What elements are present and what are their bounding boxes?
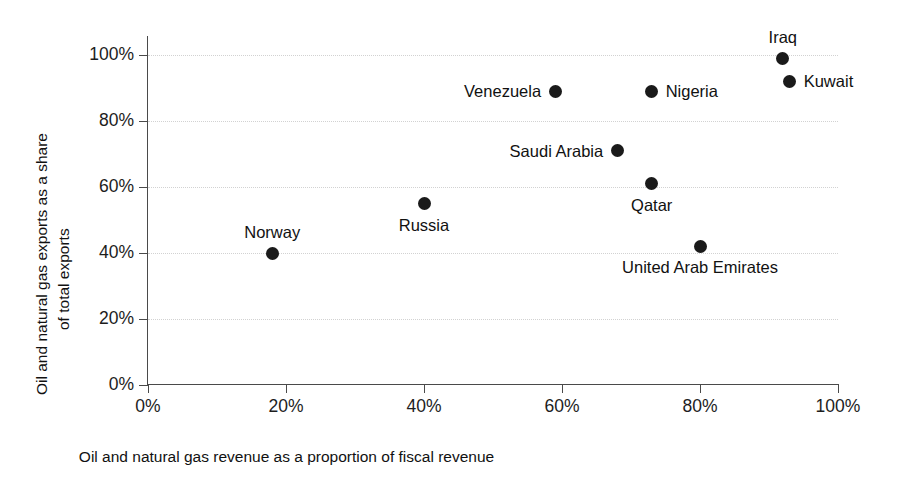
data-point-qatar[interactable] bbox=[645, 177, 658, 190]
y-tick-20 bbox=[139, 319, 148, 320]
y-axis-title-line1: Oil and natural gas exports as a share bbox=[33, 133, 51, 395]
x-tick-60 bbox=[562, 385, 563, 393]
data-label-norway: Norway bbox=[244, 223, 300, 242]
x-axis-line bbox=[148, 384, 839, 385]
y-tick-80 bbox=[139, 121, 148, 122]
y-tick-label-80: 80% bbox=[64, 110, 134, 131]
data-label-qatar: Qatar bbox=[631, 196, 672, 215]
x-tick-20 bbox=[286, 385, 287, 393]
gridline-100 bbox=[148, 55, 838, 56]
data-point-russia[interactable] bbox=[418, 197, 431, 210]
gridline-80 bbox=[148, 121, 838, 122]
y-tick-0 bbox=[139, 385, 148, 386]
data-point-saudi-arabia[interactable] bbox=[611, 144, 624, 157]
gridline-20 bbox=[148, 319, 838, 320]
data-point-norway[interactable] bbox=[266, 247, 279, 260]
y-tick-label-60: 60% bbox=[64, 176, 134, 197]
x-tick-label-100: 100% bbox=[816, 396, 861, 417]
data-label-venezuela: Venezuela bbox=[464, 82, 541, 101]
data-point-kuwait[interactable] bbox=[783, 75, 796, 88]
x-tick-40 bbox=[424, 385, 425, 393]
data-point-united-arab-emirates[interactable] bbox=[694, 240, 707, 253]
y-tick-label-20: 20% bbox=[64, 308, 134, 329]
x-tick-label-0: 0% bbox=[135, 396, 160, 417]
data-label-united-arab-emirates: United Arab Emirates bbox=[622, 258, 778, 277]
gridline-40 bbox=[148, 253, 838, 254]
data-label-saudi-arabia: Saudi Arabia bbox=[510, 141, 604, 160]
x-tick-label-20: 20% bbox=[268, 396, 303, 417]
y-tick-40 bbox=[139, 253, 148, 254]
y-tick-label-0: 0% bbox=[64, 374, 134, 395]
y-tick-label-100: 100% bbox=[64, 44, 134, 65]
y-axis-line bbox=[147, 36, 148, 385]
x-tick-label-80: 80% bbox=[682, 396, 717, 417]
y-tick-100 bbox=[139, 55, 148, 56]
x-tick-80 bbox=[700, 385, 701, 393]
x-tick-0 bbox=[148, 385, 149, 393]
data-point-nigeria[interactable] bbox=[645, 85, 658, 98]
data-label-nigeria: Nigeria bbox=[666, 82, 718, 101]
x-tick-100 bbox=[838, 385, 839, 393]
y-axis-title-line2: of total exports bbox=[55, 228, 73, 330]
scatter-chart: NorwayRussiaVenezuelaSaudi ArabiaNigeria… bbox=[0, 0, 903, 489]
y-tick-label-40: 40% bbox=[64, 242, 134, 263]
data-point-venezuela[interactable] bbox=[549, 85, 562, 98]
y-tick-60 bbox=[139, 187, 148, 188]
x-tick-label-60: 60% bbox=[544, 396, 579, 417]
gridline-60 bbox=[148, 187, 838, 188]
data-label-kuwait: Kuwait bbox=[804, 72, 854, 91]
x-tick-label-40: 40% bbox=[406, 396, 441, 417]
data-point-iraq[interactable] bbox=[776, 52, 789, 65]
plot-area: NorwayRussiaVenezuelaSaudi ArabiaNigeria… bbox=[148, 55, 838, 385]
x-axis-title: Oil and natural gas revenue as a proport… bbox=[0, 448, 573, 466]
data-label-russia: Russia bbox=[399, 216, 449, 235]
data-label-iraq: Iraq bbox=[769, 28, 797, 47]
